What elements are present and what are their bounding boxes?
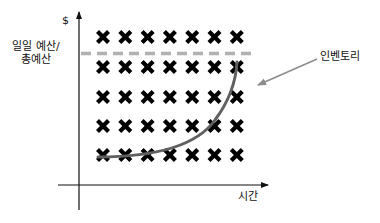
cross-icon xyxy=(141,60,155,74)
cross-icon xyxy=(118,30,132,44)
y-axis-label: 일일 예산/ 총예산 xyxy=(0,40,72,66)
cross-icon xyxy=(185,148,199,162)
cross-grid xyxy=(96,30,244,162)
cross-icon xyxy=(163,90,177,104)
cross-icon xyxy=(185,90,199,104)
cross-icon xyxy=(230,119,244,133)
cross-icon xyxy=(96,30,110,44)
cross-icon xyxy=(185,119,199,133)
cross-icon xyxy=(208,30,222,44)
cross-icon xyxy=(163,30,177,44)
cross-icon xyxy=(141,30,155,44)
y-axis-dollar-symbol: $ xyxy=(62,14,69,27)
cross-icon xyxy=(230,30,244,44)
cross-icon xyxy=(96,90,110,104)
x-axis-label: 시간 xyxy=(238,190,258,203)
cross-icon xyxy=(96,60,110,74)
inventory-budget-diagram xyxy=(0,0,380,223)
inventory-label: 인벤토리 xyxy=(320,50,360,63)
y-axis-label-line1: 일일 예산/ xyxy=(0,40,72,53)
inventory-pointer-arrow xyxy=(258,59,317,85)
cross-icon xyxy=(230,148,244,162)
cross-icon xyxy=(141,119,155,133)
cross-icon xyxy=(208,90,222,104)
cross-icon xyxy=(208,148,222,162)
y-axis-label-line2: 총예산 xyxy=(0,53,72,66)
cross-icon xyxy=(163,119,177,133)
inventory-curve xyxy=(98,62,237,157)
cross-icon xyxy=(208,60,222,74)
cross-icon xyxy=(96,119,110,133)
cross-icon xyxy=(185,60,199,74)
cross-icon xyxy=(141,90,155,104)
cross-icon xyxy=(118,90,132,104)
cross-icon xyxy=(118,119,132,133)
cross-icon xyxy=(118,60,132,74)
cross-icon xyxy=(96,148,110,162)
cross-icon xyxy=(163,60,177,74)
cross-icon xyxy=(185,30,199,44)
